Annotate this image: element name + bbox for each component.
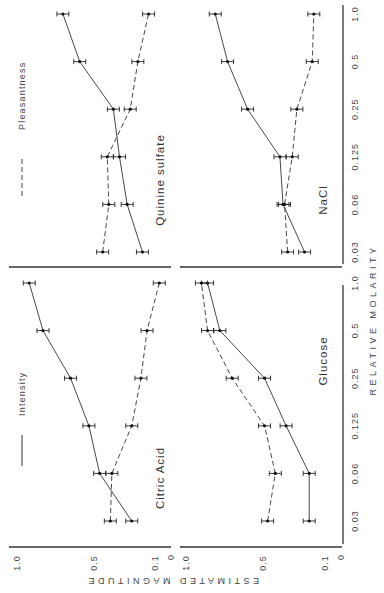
molarity-tick-label: 0.5 <box>350 54 360 70</box>
data-point <box>308 472 311 475</box>
data-point <box>214 12 217 15</box>
data-point <box>129 108 132 111</box>
magnitude-tick-label: 1.0 <box>12 555 22 571</box>
legend: Pleasantness Intensity <box>17 62 27 466</box>
panel-nacl <box>209 12 320 255</box>
data-point <box>295 108 298 111</box>
magnitude-tick-label: 0.5 <box>89 555 99 571</box>
data-point <box>303 250 306 253</box>
panel-glucose <box>195 281 315 524</box>
legend-intensity-label: Intensity <box>17 372 27 416</box>
panel-title-glucose: Glucose <box>317 336 329 385</box>
data-point <box>278 155 281 158</box>
data-point <box>141 250 144 253</box>
data-point <box>226 60 229 63</box>
panel-quinine-sulfate <box>57 12 155 255</box>
data-point <box>147 12 150 15</box>
pleasantness-line <box>103 14 149 252</box>
data-point <box>136 60 139 63</box>
intensity-line <box>208 283 310 521</box>
magnitude-tick-label: 0.1 <box>150 555 160 571</box>
data-point <box>106 155 109 158</box>
panel-title-citric: Citric Acid <box>154 447 166 509</box>
molarity-tick-label: 0.03 <box>350 510 360 532</box>
data-point <box>312 12 315 15</box>
data-point <box>311 60 314 63</box>
panel-title-nacl: NaCl <box>317 185 329 215</box>
legend-pleasantness-label: Pleasantness <box>17 62 27 130</box>
chart-figure: 0.030.060.1250.250.51.00.030.060.1250.25… <box>0 0 384 593</box>
data-point <box>231 377 234 380</box>
data-point <box>109 519 112 522</box>
data-point <box>291 155 294 158</box>
data-point <box>266 519 269 522</box>
molarity-tick-label: 1.0 <box>350 6 360 22</box>
pleasantness-line <box>201 283 275 521</box>
panel-title-quinine: Quinine sulfate <box>154 134 166 226</box>
data-point <box>69 377 72 380</box>
data-point <box>126 203 129 206</box>
molarity-tick-label: 0.25 <box>350 98 360 120</box>
intensity-line <box>215 14 304 252</box>
data-point <box>130 519 133 522</box>
pleasantness-line <box>110 283 159 521</box>
magnitude-axes <box>9 267 342 547</box>
data-point <box>112 108 115 111</box>
data-point <box>139 377 142 380</box>
magnitude-tick-label: 0.1 <box>320 555 330 571</box>
molarity-tick-label: 0.125 <box>350 412 360 440</box>
data-point <box>78 60 81 63</box>
data-point <box>118 155 121 158</box>
magnitude-tick-label: 0 <box>166 554 176 560</box>
data-point <box>218 329 221 332</box>
magnitude-tick-label: 1.0 <box>181 555 191 571</box>
data-point <box>206 329 209 332</box>
data-point <box>61 12 64 15</box>
molarity-tick-label: 0.06 <box>350 463 360 485</box>
data-point <box>263 377 266 380</box>
data-point <box>130 424 133 427</box>
data-point <box>110 472 113 475</box>
data-point <box>308 519 311 522</box>
data-point <box>41 329 44 332</box>
data-point <box>107 203 110 206</box>
pleasantness-line <box>285 14 314 252</box>
data-point <box>98 472 101 475</box>
data-point <box>285 424 288 427</box>
data-point <box>283 203 286 206</box>
molarity-tick-label: 0.125 <box>350 143 360 171</box>
data-point <box>158 281 161 284</box>
data-point <box>246 108 249 111</box>
tick-labels: 0.030.060.1250.250.51.00.030.060.1250.25… <box>12 6 360 571</box>
intensity-line <box>63 14 143 252</box>
data-point <box>274 472 277 475</box>
data-point <box>28 281 31 284</box>
molarity-tick-label: 0.5 <box>350 323 360 339</box>
data-point <box>87 424 90 427</box>
data-point <box>286 250 289 253</box>
data-point <box>101 250 104 253</box>
data-point <box>145 329 148 332</box>
y-axis-title: ESTIMATED MAGNITUDE <box>85 576 259 586</box>
molarity-tick-label: 0.06 <box>350 194 360 216</box>
magnitude-tick-label: 0 <box>336 554 346 560</box>
x-axis-title: RELATIVE MOLARITY <box>368 245 378 396</box>
data-point <box>263 424 266 427</box>
panel-citric-acid <box>23 281 165 524</box>
intensity-line <box>29 283 132 521</box>
data-point <box>200 281 203 284</box>
magnitude-tick-label: 0.5 <box>258 555 268 571</box>
molarity-tick-label: 0.25 <box>350 367 360 389</box>
molarity-tick-label: 1.0 <box>350 275 360 291</box>
molarity-tick-label: 0.03 <box>350 241 360 263</box>
